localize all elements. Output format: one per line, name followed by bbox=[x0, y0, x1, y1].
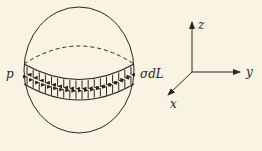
band-bottom-edge bbox=[24, 84, 134, 100]
z-label: z bbox=[197, 18, 205, 32]
x-label: x bbox=[170, 97, 177, 111]
label-p: p bbox=[6, 67, 14, 81]
y-label: y bbox=[245, 65, 253, 79]
sphere-outline bbox=[24, 7, 134, 133]
sphere-diagram: p σdL z y x bbox=[0, 0, 262, 151]
coordinate-axes: z y x bbox=[168, 18, 253, 111]
equator-back-dashed bbox=[24, 46, 134, 64]
band-top-edge bbox=[24, 64, 134, 80]
label-sigma-dl: σdL bbox=[140, 67, 164, 81]
x-axis bbox=[168, 72, 192, 95]
band-arrows bbox=[27, 67, 131, 99]
